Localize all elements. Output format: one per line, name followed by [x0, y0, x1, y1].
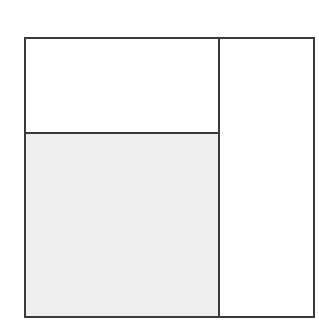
region-bottom-left-shaded: [26, 132, 218, 316]
diagram-canvas: [0, 0, 319, 331]
region-right: [218, 39, 313, 316]
region-top-left: [26, 39, 218, 132]
outer-square: [24, 37, 315, 318]
